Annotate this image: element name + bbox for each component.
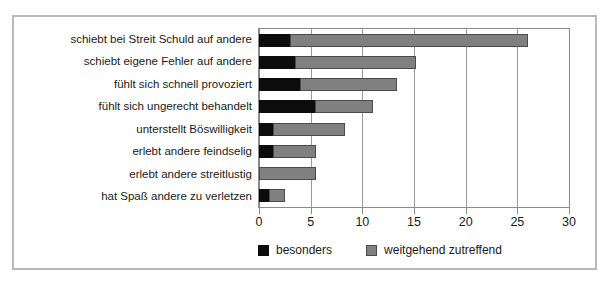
stacked-bar[interactable] bbox=[259, 78, 397, 91]
bar-row bbox=[259, 185, 569, 207]
axis-tick-mark bbox=[362, 208, 363, 214]
category-label: fühlt sich schnell provoziert bbox=[20, 73, 258, 96]
bar-segment-besonders[interactable] bbox=[259, 100, 315, 113]
bar-segment-besonders[interactable] bbox=[259, 34, 290, 47]
category-label: schiebt bei Streit Schuld auf andere bbox=[20, 28, 258, 51]
legend-entry[interactable]: besonders bbox=[258, 243, 332, 257]
axis-tick-mark bbox=[569, 208, 570, 214]
axis-tick-label: 25 bbox=[510, 215, 524, 229]
chart-legend: besondersweitgehend zutreffend bbox=[258, 240, 588, 260]
bar-segment-besonders[interactable] bbox=[259, 145, 273, 158]
axis-tick-mark bbox=[517, 208, 518, 214]
axis-tick-label: 30 bbox=[562, 215, 576, 229]
bar-segment-weitgehend[interactable] bbox=[290, 34, 528, 47]
axis-tick-mark bbox=[311, 208, 312, 214]
chart-figure: schiebt bei Streit Schuld auf andereschi… bbox=[12, 15, 597, 270]
stacked-bar[interactable] bbox=[259, 145, 316, 158]
bar-series-group bbox=[259, 29, 569, 207]
chart-plot-container: schiebt bei Streit Schuld auf andereschi… bbox=[14, 17, 599, 272]
bar-segment-weitgehend[interactable] bbox=[269, 189, 285, 202]
stacked-bar[interactable] bbox=[259, 123, 345, 136]
axis-tick-mark bbox=[466, 208, 467, 214]
stacked-bar[interactable] bbox=[259, 167, 316, 180]
bar-segment-besonders[interactable] bbox=[259, 189, 269, 202]
bar-row bbox=[259, 140, 569, 162]
axis-tick-label: 15 bbox=[407, 215, 421, 229]
plot-area bbox=[258, 28, 570, 208]
bar-row bbox=[259, 29, 569, 51]
bar-segment-weitgehend[interactable] bbox=[259, 167, 316, 180]
category-label: erlebt andere feindselig bbox=[20, 141, 258, 164]
category-label: unterstellt Böswilligkeit bbox=[20, 118, 258, 141]
bar-row bbox=[259, 51, 569, 73]
bar-row bbox=[259, 163, 569, 185]
category-label: erlebt andere streitlustig bbox=[20, 163, 258, 186]
stacked-bar[interactable] bbox=[259, 34, 528, 47]
stacked-bar[interactable] bbox=[259, 56, 416, 69]
bar-segment-weitgehend[interactable] bbox=[295, 56, 416, 69]
gray-swatch bbox=[366, 245, 377, 256]
bar-row bbox=[259, 118, 569, 140]
stacked-bar[interactable] bbox=[259, 189, 285, 202]
category-label: hat Spaß andere zu verletzen bbox=[20, 186, 258, 209]
bar-segment-weitgehend[interactable] bbox=[315, 100, 373, 113]
category-axis: schiebt bei Streit Schuld auf andereschi… bbox=[20, 28, 258, 208]
category-label: fühlt sich ungerecht behandelt bbox=[20, 96, 258, 119]
bar-segment-besonders[interactable] bbox=[259, 78, 300, 91]
bar-segment-weitgehend[interactable] bbox=[300, 78, 397, 91]
axis-tick-label: 0 bbox=[256, 215, 263, 229]
axis-tick-mark bbox=[414, 208, 415, 214]
bar-segment-besonders[interactable] bbox=[259, 123, 273, 136]
bar-segment-weitgehend[interactable] bbox=[273, 123, 344, 136]
bar-segment-weitgehend[interactable] bbox=[273, 145, 315, 158]
bar-row bbox=[259, 74, 569, 96]
value-axis: 051015202530 bbox=[258, 208, 570, 234]
legend-entry[interactable]: weitgehend zutreffend bbox=[366, 243, 502, 257]
stacked-bar[interactable] bbox=[259, 100, 373, 113]
gridline bbox=[569, 29, 570, 207]
axis-tick-label: 20 bbox=[459, 215, 473, 229]
legend-label: besonders bbox=[276, 243, 332, 257]
legend-label: weitgehend zutreffend bbox=[384, 243, 502, 257]
axis-tick-label: 10 bbox=[355, 215, 369, 229]
axis-tick-label: 5 bbox=[307, 215, 314, 229]
black-swatch bbox=[258, 245, 269, 256]
bar-row bbox=[259, 96, 569, 118]
bar-segment-besonders[interactable] bbox=[259, 56, 295, 69]
category-label: schiebt eigene Fehler auf andere bbox=[20, 51, 258, 74]
axis-tick-mark bbox=[259, 208, 260, 214]
